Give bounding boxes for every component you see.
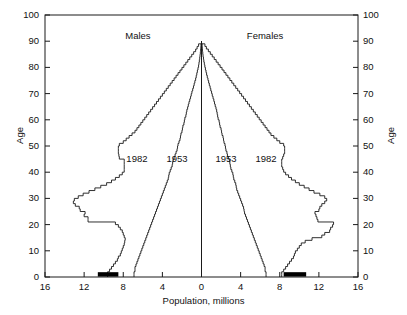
y-tick-label-right-40: 40 — [363, 166, 393, 177]
y-tick-label-right-100: 100 — [363, 9, 393, 20]
y-tick-label-right-10: 10 — [363, 245, 393, 256]
x-tick-label-1: 12 — [69, 281, 99, 292]
x-tick-label-0: 16 — [30, 281, 60, 292]
x-axis-title: Population, millions — [0, 295, 407, 306]
males-label: Males — [113, 30, 163, 41]
x-tick-label-8: 16 — [343, 281, 373, 292]
x-tick-label-3: 4 — [147, 281, 177, 292]
y-tick-label-left-40: 40 — [9, 166, 39, 177]
y-axis-title-left: Age — [14, 116, 25, 156]
y-tick-label-right-90: 90 — [363, 35, 393, 46]
y-tick-label-left-30: 30 — [9, 192, 39, 203]
y-tick-label-left-100: 100 — [9, 9, 39, 20]
males-birth-cohort-bar — [98, 272, 119, 276]
population-pyramid-figure: 0010102020303040405050606070708080909010… — [0, 0, 407, 315]
y-tick-label-left-10: 10 — [9, 245, 39, 256]
females-label: Females — [240, 30, 290, 41]
x-tick-label-2: 8 — [108, 281, 138, 292]
y-tick-label-right-20: 20 — [363, 219, 393, 230]
y-axis-title-right: Age — [385, 116, 396, 156]
females-1982-label: 1982 — [241, 153, 291, 164]
y-tick-label-right-30: 30 — [363, 192, 393, 203]
y-tick-label-right-70: 70 — [363, 88, 393, 99]
x-tick-label-4: 0 — [187, 281, 217, 292]
x-tick-label-5: 4 — [226, 281, 256, 292]
x-tick-label-6: 8 — [265, 281, 295, 292]
y-tick-label-left-90: 90 — [9, 35, 39, 46]
x-tick-label-7: 12 — [304, 281, 334, 292]
y-tick-label-right-80: 80 — [363, 61, 393, 72]
y-tick-label-left-70: 70 — [9, 88, 39, 99]
y-tick-label-left-20: 20 — [9, 219, 39, 230]
males-1953-label: 1953 — [152, 153, 202, 164]
y-tick-label-left-80: 80 — [9, 61, 39, 72]
females-birth-cohort-bar — [284, 272, 306, 276]
